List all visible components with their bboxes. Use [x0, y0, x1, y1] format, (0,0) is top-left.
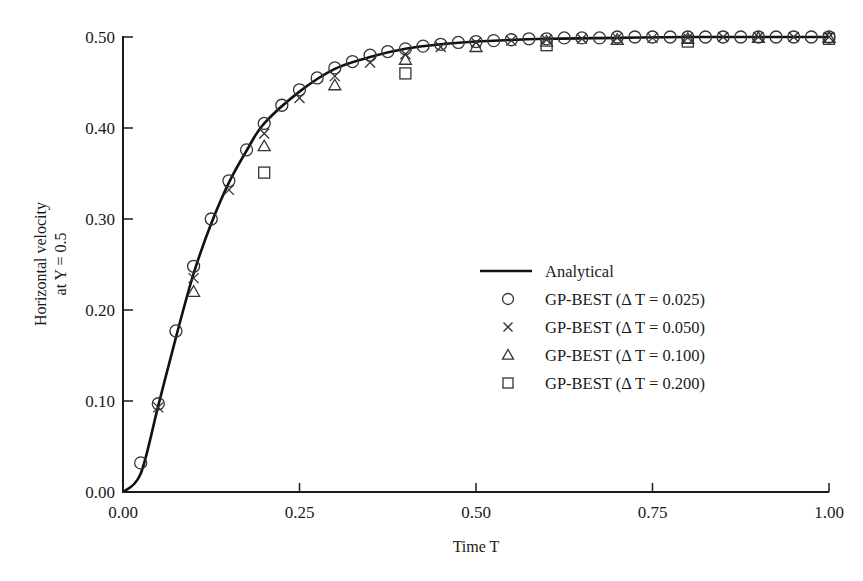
legend-label: GP-BEST (Δ T = 0.050) — [545, 318, 705, 337]
y-tick-label: 0.20 — [85, 301, 115, 320]
legend-label: GP-BEST (Δ T = 0.100) — [545, 346, 705, 365]
y-tick-label: 0.00 — [85, 483, 115, 502]
y-tick-label: 0.40 — [85, 119, 115, 138]
triangle-marker — [258, 140, 270, 151]
y-axis-title-line2: at Y = 0.5 — [52, 233, 69, 296]
legend-label: Analytical — [545, 262, 614, 281]
series-circle — [135, 31, 835, 469]
x-tick-label: 0.50 — [461, 503, 491, 522]
plot-area: 0.000.100.200.300.400.50 0.000.250.500.7… — [85, 28, 844, 522]
x-tick-label: 1.00 — [814, 503, 844, 522]
legend-item: GP-BEST (Δ T = 0.050) — [504, 318, 706, 337]
y-axis-title-line1: Horizontal velocity — [32, 202, 50, 326]
data-layer — [123, 31, 835, 492]
series-square — [259, 33, 835, 178]
square-marker — [400, 68, 411, 79]
triangle-marker — [503, 350, 514, 360]
y-tick-label: 0.10 — [85, 392, 115, 411]
x-tick-label: 0.00 — [108, 503, 138, 522]
y-tick-label: 0.50 — [85, 28, 115, 47]
x-marker — [504, 323, 513, 332]
velocity-chart: 0.000.100.200.300.400.50 0.000.250.500.7… — [0, 0, 863, 581]
circle-marker — [503, 294, 514, 305]
y-axis-ticks: 0.000.100.200.300.400.50 — [85, 28, 133, 502]
x-axis-title: Time T — [453, 538, 500, 555]
legend-item: GP-BEST (Δ T = 0.025) — [503, 290, 706, 309]
legend-item: GP-BEST (Δ T = 0.200) — [503, 374, 705, 393]
legend: AnalyticalGP-BEST (Δ T = 0.025)GP-BEST (… — [480, 262, 705, 393]
series-triangle — [188, 32, 835, 296]
square-marker — [259, 167, 270, 178]
y-axis-title: Horizontal velocity at Y = 0.5 — [32, 202, 69, 326]
analytical-curve — [123, 37, 829, 492]
x-marker — [295, 93, 305, 103]
legend-label: GP-BEST (Δ T = 0.200) — [545, 374, 705, 393]
legend-item: Analytical — [480, 262, 614, 281]
series-x — [153, 32, 834, 412]
x-axis-ticks: 0.000.250.500.751.00 — [108, 483, 844, 522]
legend-label: GP-BEST (Δ T = 0.025) — [545, 290, 705, 309]
x-marker — [365, 57, 375, 67]
x-tick-label: 0.25 — [285, 503, 315, 522]
y-tick-label: 0.30 — [85, 210, 115, 229]
square-marker — [503, 378, 513, 388]
legend-item: GP-BEST (Δ T = 0.100) — [503, 346, 706, 365]
x-tick-label: 0.75 — [638, 503, 668, 522]
